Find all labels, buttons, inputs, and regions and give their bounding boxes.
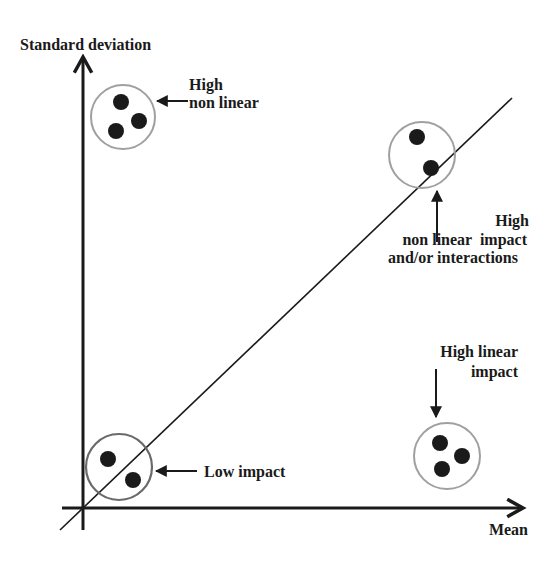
data-point	[432, 435, 448, 451]
data-point	[100, 451, 116, 467]
cluster-high-non-linear: High non linear	[91, 76, 259, 149]
label-non-linear-impact: non linear impact	[402, 231, 527, 249]
label-low-impact: Low impact	[204, 463, 286, 481]
x-axis-label: Mean	[489, 521, 528, 538]
label-high: High	[189, 76, 223, 94]
label-high-linear: High linear	[440, 343, 518, 361]
label-high: High	[495, 212, 529, 230]
label-impact: impact	[471, 363, 519, 381]
data-point	[108, 123, 124, 139]
data-point	[409, 129, 425, 145]
cluster-high-linear-impact: High linear impact	[414, 343, 519, 489]
data-point	[131, 113, 147, 129]
cluster-outline	[86, 434, 152, 500]
cluster-low-impact: Low impact	[86, 434, 286, 500]
cluster-high-non-linear-interactions: High non linear impact and/or interactio…	[388, 122, 529, 266]
data-point	[113, 94, 129, 110]
label-non-linear: non linear	[189, 94, 259, 111]
data-point	[423, 160, 439, 176]
y-axis-label: Standard deviation	[20, 36, 151, 53]
data-point	[125, 472, 141, 488]
sensitivity-diagram: Standard deviation Mean High non linear …	[0, 0, 558, 570]
label-and-or-interactions: and/or interactions	[388, 249, 518, 266]
data-point	[434, 461, 450, 477]
data-point	[454, 448, 470, 464]
cluster-outline	[414, 423, 480, 489]
